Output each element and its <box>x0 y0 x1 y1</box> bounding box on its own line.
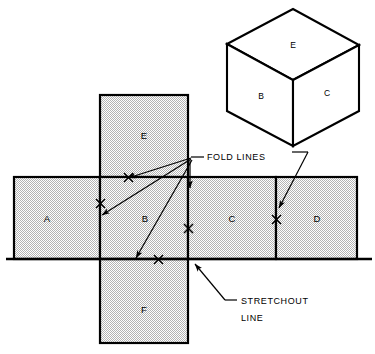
pictorial-cube: E B C <box>227 9 359 146</box>
fold-lines-label: FOLD LINES <box>207 152 266 162</box>
stretchout-label-line2: LINE <box>241 313 263 323</box>
cube-label-C: C <box>324 88 330 98</box>
panel-label-E: E <box>141 130 147 141</box>
stretchout-diagram: E B C E A B C D F <box>0 0 375 354</box>
panel-label-F: F <box>141 304 147 315</box>
panel-F <box>100 259 188 343</box>
stretchout-callout: STRETCHOUT LINE <box>195 264 309 323</box>
stretchout-label-line1: STRETCHOUT <box>241 296 309 306</box>
panel-label-D: D <box>314 213 321 224</box>
cube-label-E: E <box>290 40 296 50</box>
panel-A <box>14 177 100 259</box>
panel-label-C: C <box>229 213 236 224</box>
cube-label-B: B <box>258 91 264 101</box>
stretchout-leader-arrow <box>195 264 225 300</box>
panel-label-A: A <box>44 213 51 224</box>
panel-label-B: B <box>142 213 148 224</box>
